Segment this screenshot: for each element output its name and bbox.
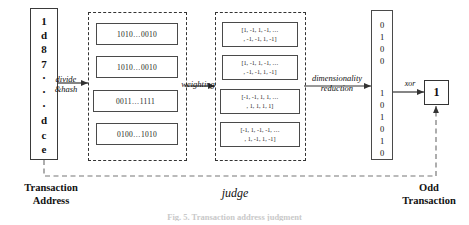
address-char: 8 [41,42,47,56]
vector-line: , -1, -1, 1, -1] [244,35,277,44]
reduced-bit: 0 [380,99,384,111]
address-char: d [41,113,47,127]
hash-segment-box: 0011…1111 [93,90,178,112]
reduced-bit: 0 [380,55,384,67]
vector-line: , 1, -1, 1, -1] [245,135,276,144]
label-divide-line1: divide [44,74,88,84]
weighted-vector-box: [-1, -1, 1, 1, … , 1, 1, 1, 1] [220,89,300,114]
label-judge: judge [190,186,280,201]
figure-transaction-address-judgment: 1 d 8 7 · · · d c e 1010…0010 1010…0010 … [0,0,469,225]
weighted-vector-group: [1, -1, 1, -1, … , -1, -1, 1, -1] [1, -1… [215,12,306,161]
weighted-vector-box: [1, -1, 1, -1, … , -1, -1, 1, -1] [222,22,298,47]
reduced-bit: 0 [380,19,384,31]
reduced-bit: 1 [380,111,384,123]
label-dimred-line2: reduction [304,83,370,93]
vector-line: [-1, -1, 1, 1, … [241,93,278,102]
vector-line: [1, -1, 1, -1, … [241,26,278,35]
vector-line: [1, -1, 1, -1, … [241,59,278,68]
reduced-bit: 0 [380,147,384,159]
label-transaction-line1: Transaction [8,181,94,194]
address-char: 1 [41,14,47,28]
odd-transaction-result-box: 1 [424,80,449,105]
label-divide-line2: &hash [44,84,88,94]
reduced-bit: 0 [380,43,384,55]
vector-line: , 1, 1, 1, 1] [247,102,274,111]
hash-segment-box: 0100…1010 [96,123,178,145]
hash-segment-group: 1010…0010 1010…0010 0011…1111 0100…1010 [88,12,187,161]
vector-line: , -1, -1, 1, -1] [244,68,277,77]
label-dimensionality-reduction: dimensionality reduction [304,73,370,93]
label-dimred-line1: dimensionality [304,73,370,83]
reduced-fingerprint-box: 0 1 0 0 1 0 1 0 1 0 [371,10,393,160]
hash-segment-box: 1010…0010 [96,56,178,78]
weighted-vector-box: [-1, 1, -1, -1, … , 1, -1, 1, -1] [220,122,300,147]
label-transaction-address: Transaction Address [8,181,94,207]
address-char: e [42,142,47,156]
weighted-vector-box: [1, -1, 1, -1, … , -1, -1, 1, -1] [222,55,298,80]
hash-segment-box: 1010…0010 [96,23,178,45]
reduced-bit: 1 [380,135,384,147]
address-char: c [42,128,47,142]
address-char: 7 [41,57,47,71]
reduced-bit: 0 [380,123,384,135]
figure-caption: Fig. 5. Transaction address judgment [0,212,469,221]
label-odd-line1: Odd [390,181,468,194]
label-transaction-line2: Transaction [390,194,468,207]
label-xor: xor [397,79,423,89]
label-weighting: weighting [178,79,218,89]
address-ellipsis-dot: · [42,99,46,113]
address-char: d [41,28,47,42]
label-odd-transaction: Odd Transaction [390,181,468,207]
reduced-bit: 1 [380,31,384,43]
vector-line: [-1, 1, -1, -1, … [240,126,279,135]
label-address-line2: Address [8,194,94,207]
reduced-bit: 1 [380,87,384,99]
label-divide-and-hash: divide &hash [44,74,88,94]
